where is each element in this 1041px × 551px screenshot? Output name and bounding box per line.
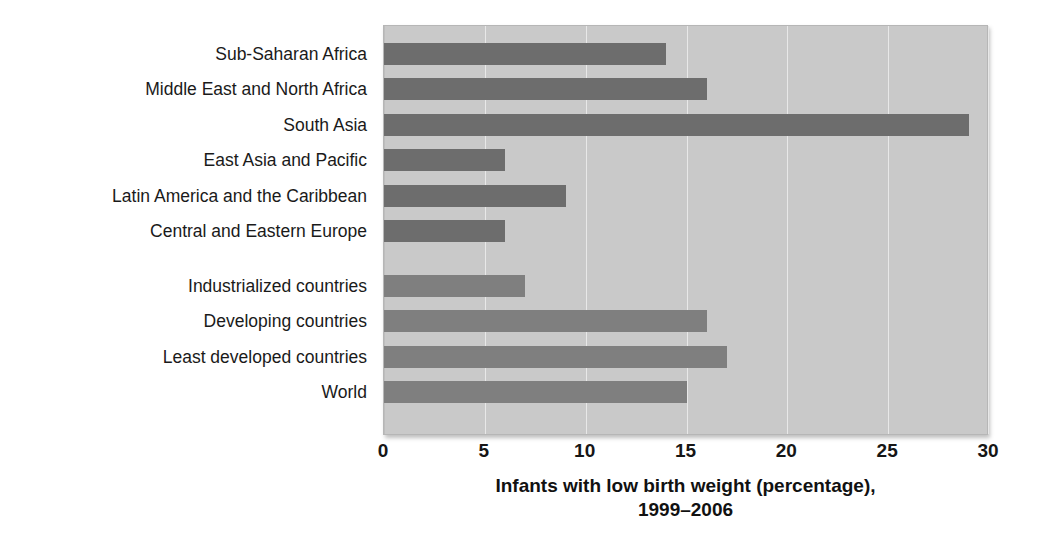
bar [384, 275, 525, 297]
category-label: East Asia and Pacific [0, 152, 367, 170]
bar [384, 185, 566, 207]
bar [384, 220, 505, 242]
category-label: Industrialized countries [0, 278, 367, 296]
category-label: Middle East and North Africa [0, 81, 367, 99]
category-label: Sub-Saharan Africa [0, 46, 367, 64]
x-tick-label: 30 [977, 441, 998, 460]
bar [384, 381, 687, 403]
x-tick-label: 0 [378, 441, 389, 460]
category-label: Central and Eastern Europe [0, 223, 367, 241]
x-axis-title: Infants with low birth weight (percentag… [383, 474, 988, 522]
plot-area [383, 25, 988, 435]
bar [384, 43, 666, 65]
gridline-30 [988, 26, 989, 434]
x-tick-label: 5 [479, 441, 490, 460]
x-axis-tick-labels: 051015202530 [383, 441, 988, 467]
bar [384, 346, 727, 368]
x-tick-label: 20 [776, 441, 797, 460]
x-tick-label: 25 [877, 441, 898, 460]
bars-layer [384, 26, 987, 434]
bar [384, 149, 505, 171]
x-axis-title-line: 1999–2006 [383, 498, 988, 522]
category-axis-labels: Sub-Saharan AfricaMiddle East and North … [0, 25, 375, 435]
bar-chart-figure: Sub-Saharan AfricaMiddle East and North … [0, 0, 1041, 551]
category-label: World [0, 384, 367, 402]
x-tick-label: 15 [675, 441, 696, 460]
bar [384, 114, 969, 136]
bar [384, 78, 707, 100]
x-tick-label: 10 [574, 441, 595, 460]
bar [384, 310, 707, 332]
category-label: Developing countries [0, 313, 367, 331]
category-label: Least developed countries [0, 349, 367, 367]
category-label: South Asia [0, 117, 367, 135]
x-axis-title-line: Infants with low birth weight (percentag… [383, 474, 988, 498]
category-label: Latin America and the Caribbean [0, 188, 367, 206]
